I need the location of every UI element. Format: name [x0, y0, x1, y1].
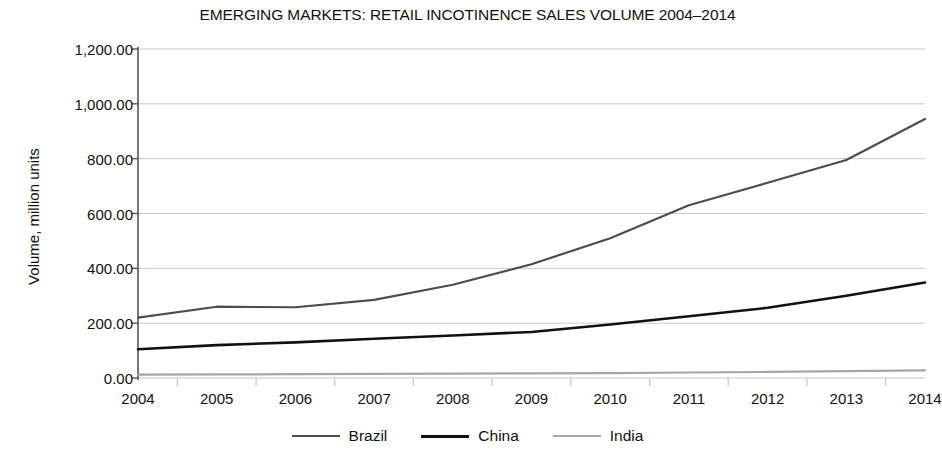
x-axis-tick-label: 2011	[673, 390, 705, 407]
y-axis-tick-label: 1,200.00	[15, 41, 133, 58]
chart-legend: BrazilChinaIndia	[0, 427, 935, 445]
x-axis-tick-label: 2004	[121, 390, 154, 407]
legend-label: Brazil	[349, 427, 388, 445]
series-line-china	[138, 283, 925, 350]
x-axis-tick-label: 2013	[830, 390, 863, 407]
series-line-india	[138, 370, 925, 374]
legend-line-swatch	[421, 435, 469, 438]
legend-item-china[interactable]: China	[421, 427, 519, 445]
legend-item-india[interactable]: India	[553, 427, 644, 445]
x-axis-tick-label: 2006	[279, 390, 312, 407]
series-lines	[138, 119, 925, 375]
y-axis-tick-label: 600.00	[15, 205, 133, 222]
x-axis-tick-label: 2012	[751, 390, 784, 407]
legend-line-swatch	[292, 435, 340, 437]
series-line-brazil	[138, 119, 925, 318]
y-axis-tick-label: 400.00	[15, 260, 133, 277]
y-axis-tick-label: 800.00	[15, 150, 133, 167]
legend-label: China	[478, 427, 519, 445]
x-axis-tick-label: 2010	[594, 390, 627, 407]
x-axis-tick-label: 2007	[357, 390, 390, 407]
y-axis-tick-label: 1,000.00	[15, 95, 133, 112]
x-axis-tick-label: 2005	[200, 390, 233, 407]
y-axis-tick-labels: 0.00200.00400.00600.00800.001,000.001,20…	[8, 0, 133, 452]
legend-label: India	[610, 427, 644, 445]
y-axis-tick-label: 0.00	[15, 370, 133, 387]
x-axis-tick-labels: 2004200520062007200820092010201120122013…	[0, 390, 935, 416]
x-axis-tick-label: 2009	[515, 390, 548, 407]
x-axis-tick-label: 2008	[436, 390, 469, 407]
y-axis-tick-label: 200.00	[15, 315, 133, 332]
x-axis-ticks	[177, 378, 885, 386]
legend-line-swatch	[553, 435, 601, 437]
legend-item-brazil[interactable]: Brazil	[292, 427, 388, 445]
x-axis-tick-label: 2014	[908, 390, 941, 407]
gridlines	[138, 49, 925, 378]
